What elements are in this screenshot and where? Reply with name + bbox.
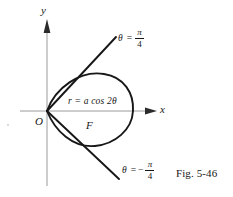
theta-symbol-lower: θ bbox=[122, 166, 127, 176]
ray-lower-label: θ = − π 4 bbox=[122, 160, 154, 181]
x-axis-label: x bbox=[160, 104, 165, 115]
y-axis bbox=[44, 19, 51, 186]
fraction-pi-over-4-upper: π 4 bbox=[135, 28, 144, 49]
curve-equation-label: r = a cos 2θ bbox=[68, 97, 117, 107]
y-axis-label: y bbox=[41, 5, 46, 16]
equals-sign-lower: = bbox=[131, 166, 136, 176]
ray-upper-label: θ = π 4 bbox=[118, 28, 144, 49]
pi-numerator-lower: π bbox=[146, 160, 155, 170]
origin-label: O bbox=[35, 116, 43, 127]
equals-sign-upper: = bbox=[127, 34, 132, 44]
figure-container: y x O F r = a cos 2θ θ = π 4 θ = − π 4 bbox=[0, 0, 233, 197]
region-label-F: F bbox=[86, 120, 93, 131]
x-axis bbox=[20, 107, 157, 114]
four-denominator-lower: 4 bbox=[146, 171, 155, 181]
scan-artifact-dot bbox=[7, 124, 9, 126]
fraction-pi-over-4-lower: π 4 bbox=[145, 160, 154, 181]
figure-caption: Fig. 5-46 bbox=[176, 168, 217, 179]
rose-petal-curve bbox=[47, 73, 133, 146]
minus-sign-lower: − bbox=[138, 166, 143, 176]
theta-symbol-upper: θ bbox=[118, 34, 123, 44]
four-denominator-upper: 4 bbox=[135, 39, 144, 49]
pi-numerator-upper: π bbox=[135, 28, 144, 38]
